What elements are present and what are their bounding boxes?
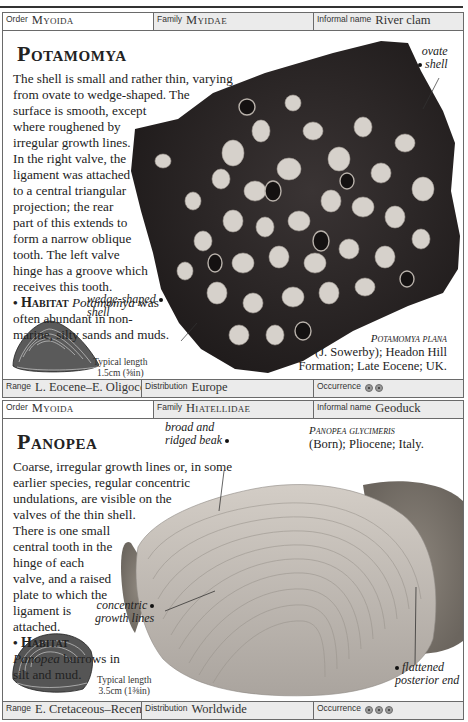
range-footer: Range E. Cretaceous–Recent Distribution … [2,701,464,720]
range-value: E. Cretaceous–Recent [35,702,142,717]
specimen-caption: Potamomya plana (J. Sowerby); Headon Hil… [298,331,447,373]
range-value: L. Eocene–E. Oligocene [35,380,142,395]
pointer-dot-icon [418,63,422,67]
classification-header: Order Myoida Family Hiatellidae Informal… [2,400,464,419]
specimen-caption: Panopea glycimeris (Born); Pliocene; Ita… [309,423,424,451]
classification-header: Order Myoida Family Myidae Informal name… [2,12,464,31]
range-footer: Range L. Eocene–E. Oligocene Distributio… [2,379,464,398]
entry-body: Panopea Coarse, irregular growth lines o… [2,419,464,701]
order-cell: Order Myoida [2,12,154,31]
entry-potamomya: Order Myoida Family Myidae Informal name… [2,10,464,400]
entry-body: Potamomya The shell is small and rather … [2,31,464,379]
distribution-cell: Distribution Europe [142,379,314,398]
typical-length: Typical length 1.5cm (⅝in) [93,357,147,379]
occurrence-cell: Occurrence [314,701,464,720]
bullet-icon: • [13,635,21,650]
habitat-section: • Habitat [13,635,313,651]
genus-title: Panopea [17,429,97,455]
order-value: Myoida [32,13,74,28]
informal-name-label: Informal name [317,14,371,24]
family-cell: Family Myidae [154,12,314,31]
order-label: Order [6,14,28,24]
family-value: Myidae [186,13,227,28]
range-cell: Range L. Eocene–E. Oligocene [2,379,142,398]
family-value: Hiatellidae [186,401,250,416]
order-cell: Order Myoida [2,400,154,419]
distribution-value: Worldwide [192,702,247,717]
distribution-cell: Distribution Worldwide [142,701,314,720]
occurrence-dot-icon [385,706,393,714]
informal-name-cell: Informal name River clam [314,12,464,31]
bullet-icon: • [13,295,21,310]
pointer-dot-icon [395,666,399,670]
informal-name-cell: Informal name Geoduck [314,400,464,419]
pointer-dot-icon [225,439,229,443]
annotation-ovate-shell: ovate shell [418,45,448,71]
page-top-rule [0,0,468,8]
occurrence-dot-icon [365,384,373,392]
entry-panopea: Order Myoida Family Hiatellidae Informal… [2,398,464,722]
informal-name-value: Geoduck [375,401,420,416]
description: Coarse, irregular growth lines or, in so… [13,459,313,683]
pointer-dot-icon [150,604,154,608]
typical-length: Typical length 3.5cm (1⅜in) [97,675,151,697]
family-label: Family [157,14,182,24]
annotation-flattened-posterior-end: flattened posterior end [395,661,459,687]
pointer-dot-icon [159,298,163,302]
distribution-value: Europe [192,380,228,395]
occurrence-dot-icon [365,706,373,714]
annotation-concentric-growth-lines: concentric growth lines [95,599,154,625]
family-cell: Family Hiatellidae [154,400,314,419]
genus-title: Potamomya [17,41,127,67]
annotation-wedge-shaped-shell: wedge-shaped shell [87,293,163,319]
informal-name-value: River clam [375,13,430,28]
occurrence-dot-icon [375,384,383,392]
order-value: Myoida [32,401,74,416]
annotation-broad-ridged-beak: broad and ridged beak [165,421,229,447]
range-cell: Range E. Cretaceous–Recent [2,701,142,720]
occurrence-cell: Occurrence [314,379,464,398]
occurrence-dot-icon [375,706,383,714]
